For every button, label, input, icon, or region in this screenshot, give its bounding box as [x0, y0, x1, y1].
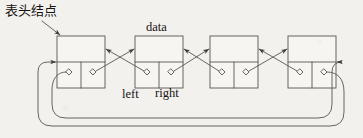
- node-3: [210, 36, 258, 88]
- right-field-label: right: [155, 87, 179, 100]
- node-2: [135, 36, 183, 88]
- data-field-label: data: [146, 21, 167, 34]
- node-1: [57, 36, 105, 88]
- head-node-callout-arrow: [42, 21, 60, 35]
- link-arrows: [96, 49, 297, 71]
- left-field-label: left: [122, 88, 139, 101]
- linked-list-diagram: [0, 0, 363, 138]
- node-4: [288, 36, 336, 88]
- head-node-label: 表头结点: [5, 4, 57, 17]
